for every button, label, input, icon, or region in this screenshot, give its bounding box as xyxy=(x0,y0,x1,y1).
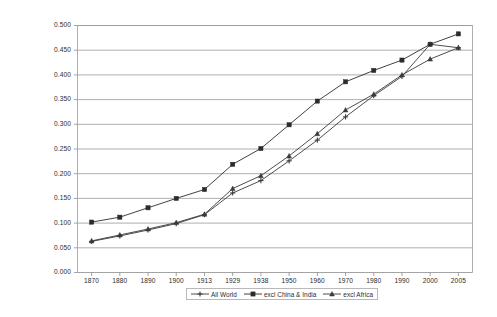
gridlines xyxy=(74,26,473,273)
x-axis-tick-label: 1950 xyxy=(273,277,305,284)
x-axis-tick-label: 1960 xyxy=(301,277,333,284)
legend-label: All World xyxy=(211,291,237,298)
x-axis-tick-label: 1980 xyxy=(358,277,390,284)
legend-label: excl China & India xyxy=(264,291,316,298)
data-point xyxy=(230,186,235,191)
x-axis-tick-label: 1900 xyxy=(160,277,192,284)
x-axis-tick-label: 1890 xyxy=(132,277,164,284)
data-point xyxy=(259,146,263,150)
data-point xyxy=(428,42,432,46)
series-0 xyxy=(89,42,461,244)
y-axis-tick-label: 0.400 xyxy=(26,71,71,78)
y-axis-tick-label: 0.000 xyxy=(26,268,71,275)
x-axis-tick-label: 1913 xyxy=(188,277,220,284)
square-marker xyxy=(244,290,262,298)
data-point xyxy=(456,32,460,36)
chart-legend: All Worldexcl China & Indiaexcl Africa xyxy=(186,288,378,300)
plot-area xyxy=(0,0,497,317)
data-series-group xyxy=(89,32,461,244)
data-point xyxy=(343,80,347,84)
x-axis-tick-label: 2000 xyxy=(414,277,446,284)
x-axis-ticks xyxy=(92,273,459,277)
series-1 xyxy=(90,32,461,224)
legend-label: excl Africa xyxy=(343,291,373,298)
y-axis-tick-label: 0.500 xyxy=(26,21,71,28)
x-axis-tick-label: 1970 xyxy=(330,277,362,284)
data-point xyxy=(146,206,150,210)
data-point xyxy=(372,68,376,72)
legend-item-1: excl China & India xyxy=(244,290,316,298)
legend-item-0: All World xyxy=(191,290,237,298)
x-axis-tick-label: 1929 xyxy=(217,277,249,284)
line-chart: 0.0000.0500.1000.1500.2000.2500.3000.350… xyxy=(0,0,497,317)
data-point xyxy=(118,215,122,219)
y-axis-tick-label: 0.150 xyxy=(26,194,71,201)
data-point xyxy=(343,107,348,112)
data-point xyxy=(202,187,206,191)
x-axis-tick-label: 1880 xyxy=(104,277,136,284)
y-axis-tick-label: 0.250 xyxy=(26,145,71,152)
data-point xyxy=(315,99,319,103)
x-axis-tick-label: 1938 xyxy=(245,277,277,284)
triangle-marker xyxy=(323,290,341,298)
x-axis-tick-label: 1870 xyxy=(76,277,108,284)
data-point xyxy=(287,123,291,127)
data-point xyxy=(400,58,404,62)
y-axis-tick-label: 0.350 xyxy=(26,95,71,102)
legend-item-2: excl Africa xyxy=(323,290,373,298)
cross-marker xyxy=(191,290,209,298)
y-axis-tick-label: 0.100 xyxy=(26,219,71,226)
y-axis-tick-label: 0.200 xyxy=(26,170,71,177)
x-axis-tick-label: 1990 xyxy=(386,277,418,284)
data-point xyxy=(174,196,178,200)
y-axis-tick-label: 0.450 xyxy=(26,46,71,53)
y-axis-tick-label: 0.300 xyxy=(26,120,71,127)
data-point xyxy=(231,162,235,166)
y-axis-tick-label: 0.050 xyxy=(26,244,71,251)
data-point xyxy=(371,92,376,97)
data-point xyxy=(90,220,94,224)
x-axis-tick-label: 2005 xyxy=(442,277,474,284)
